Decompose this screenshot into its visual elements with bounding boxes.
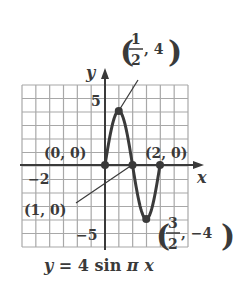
svg-text:): ) xyxy=(168,34,182,69)
point-label-one: (1, 0) xyxy=(24,202,66,218)
tick-label-y-neg5: −5 xyxy=(76,227,97,243)
svg-text:): ) xyxy=(221,218,235,253)
y-axis-arrow-icon xyxy=(101,68,109,79)
point-label-two: (2, 0) xyxy=(145,145,187,161)
y-axis-label: y xyxy=(85,63,97,82)
point-label-min: ( 3 2 , −4 ) xyxy=(156,215,235,253)
point-label-max: ( 1 2 , 4 ) xyxy=(120,31,182,69)
point-label-origin: (0, 0) xyxy=(44,145,86,161)
point-marker xyxy=(115,107,123,115)
point-marker xyxy=(142,215,150,223)
svg-text:1: 1 xyxy=(131,31,141,47)
svg-text:3: 3 xyxy=(168,215,178,231)
point-marker xyxy=(129,161,137,169)
x-axis-label: x xyxy=(196,168,207,187)
point-marker xyxy=(156,161,164,169)
point-marker xyxy=(101,161,109,169)
svg-text:2: 2 xyxy=(168,236,178,252)
tick-label-x-neg2: −2 xyxy=(28,171,49,187)
equation-caption: y = 4 sin π x xyxy=(43,256,154,275)
svg-text:, 4: , 4 xyxy=(144,41,164,57)
svg-text:, −4: , −4 xyxy=(181,225,212,241)
svg-text:2: 2 xyxy=(131,52,141,68)
sine-graph: y x 5 −5 −2 (0, 0) (2, 0) (1, 0) ( 1 2 ,… xyxy=(0,0,246,299)
tick-label-y-5: 5 xyxy=(91,93,101,109)
